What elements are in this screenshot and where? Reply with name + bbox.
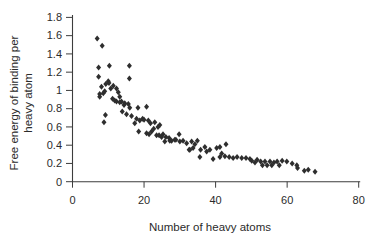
- data-point: [306, 167, 311, 173]
- data-point: [290, 160, 295, 166]
- data-point: [211, 156, 216, 162]
- data-point: [95, 35, 100, 41]
- data-point: [284, 159, 289, 165]
- data-point: [235, 154, 240, 160]
- data-point: [239, 155, 244, 161]
- data-point: [96, 74, 101, 80]
- data-point: [129, 113, 134, 119]
- data-point: [231, 155, 236, 161]
- data-point: [120, 108, 125, 114]
- data-point: [144, 104, 149, 110]
- data-point: [135, 105, 140, 111]
- data-point: [198, 147, 203, 153]
- data-point: [280, 158, 285, 164]
- data-point: [103, 112, 108, 118]
- scatter-plot-canvas: 00.20.40.60.811.21.41.61.8020406080: [0, 0, 375, 243]
- data-point: [127, 63, 132, 69]
- y-axis-title-line2: heavy atom: [21, 23, 35, 183]
- data-point: [127, 76, 132, 82]
- x-axis-title: Number of heavy atoms: [60, 221, 360, 233]
- data-point: [136, 128, 141, 134]
- y-tick-label: 0.6: [47, 121, 62, 133]
- data-point: [177, 131, 182, 137]
- data-point: [152, 119, 157, 125]
- data-point: [162, 139, 167, 145]
- x-tick-label: 60: [281, 194, 293, 206]
- data-point: [302, 168, 307, 174]
- data-point: [313, 169, 318, 175]
- figure-scatter-binding-energy: 00.20.40.60.811.21.41.61.8020406080 Free…: [0, 0, 375, 243]
- x-tick-label: 0: [69, 194, 75, 206]
- y-tick-label: 0.2: [47, 157, 62, 169]
- data-point: [124, 111, 129, 117]
- data-point: [101, 119, 106, 125]
- data-point: [223, 141, 228, 147]
- data-point: [100, 43, 105, 49]
- x-tick-label: 40: [209, 194, 221, 206]
- y-axis-title: Free energy of binding per heavy atom: [7, 23, 35, 183]
- y-tick-label: 0.4: [47, 139, 62, 151]
- y-tick-label: 0: [56, 176, 62, 188]
- y-tick-label: 1.4: [47, 48, 62, 60]
- x-tick-label: 20: [138, 194, 150, 206]
- y-axis-title-line1: Free energy of binding per: [7, 23, 21, 183]
- data-point: [107, 63, 112, 69]
- y-tick-label: 1.2: [47, 66, 62, 78]
- data-point: [197, 154, 202, 160]
- data-point: [244, 155, 249, 161]
- y-tick-label: 1.6: [47, 29, 62, 41]
- data-point: [227, 154, 232, 160]
- data-point: [99, 84, 104, 90]
- data-point: [96, 65, 101, 71]
- y-tick-label: 1: [56, 84, 62, 96]
- y-tick-label: 0.8: [47, 102, 62, 114]
- y-tick-label: 1.8: [47, 11, 62, 23]
- x-tick-label: 80: [353, 194, 365, 206]
